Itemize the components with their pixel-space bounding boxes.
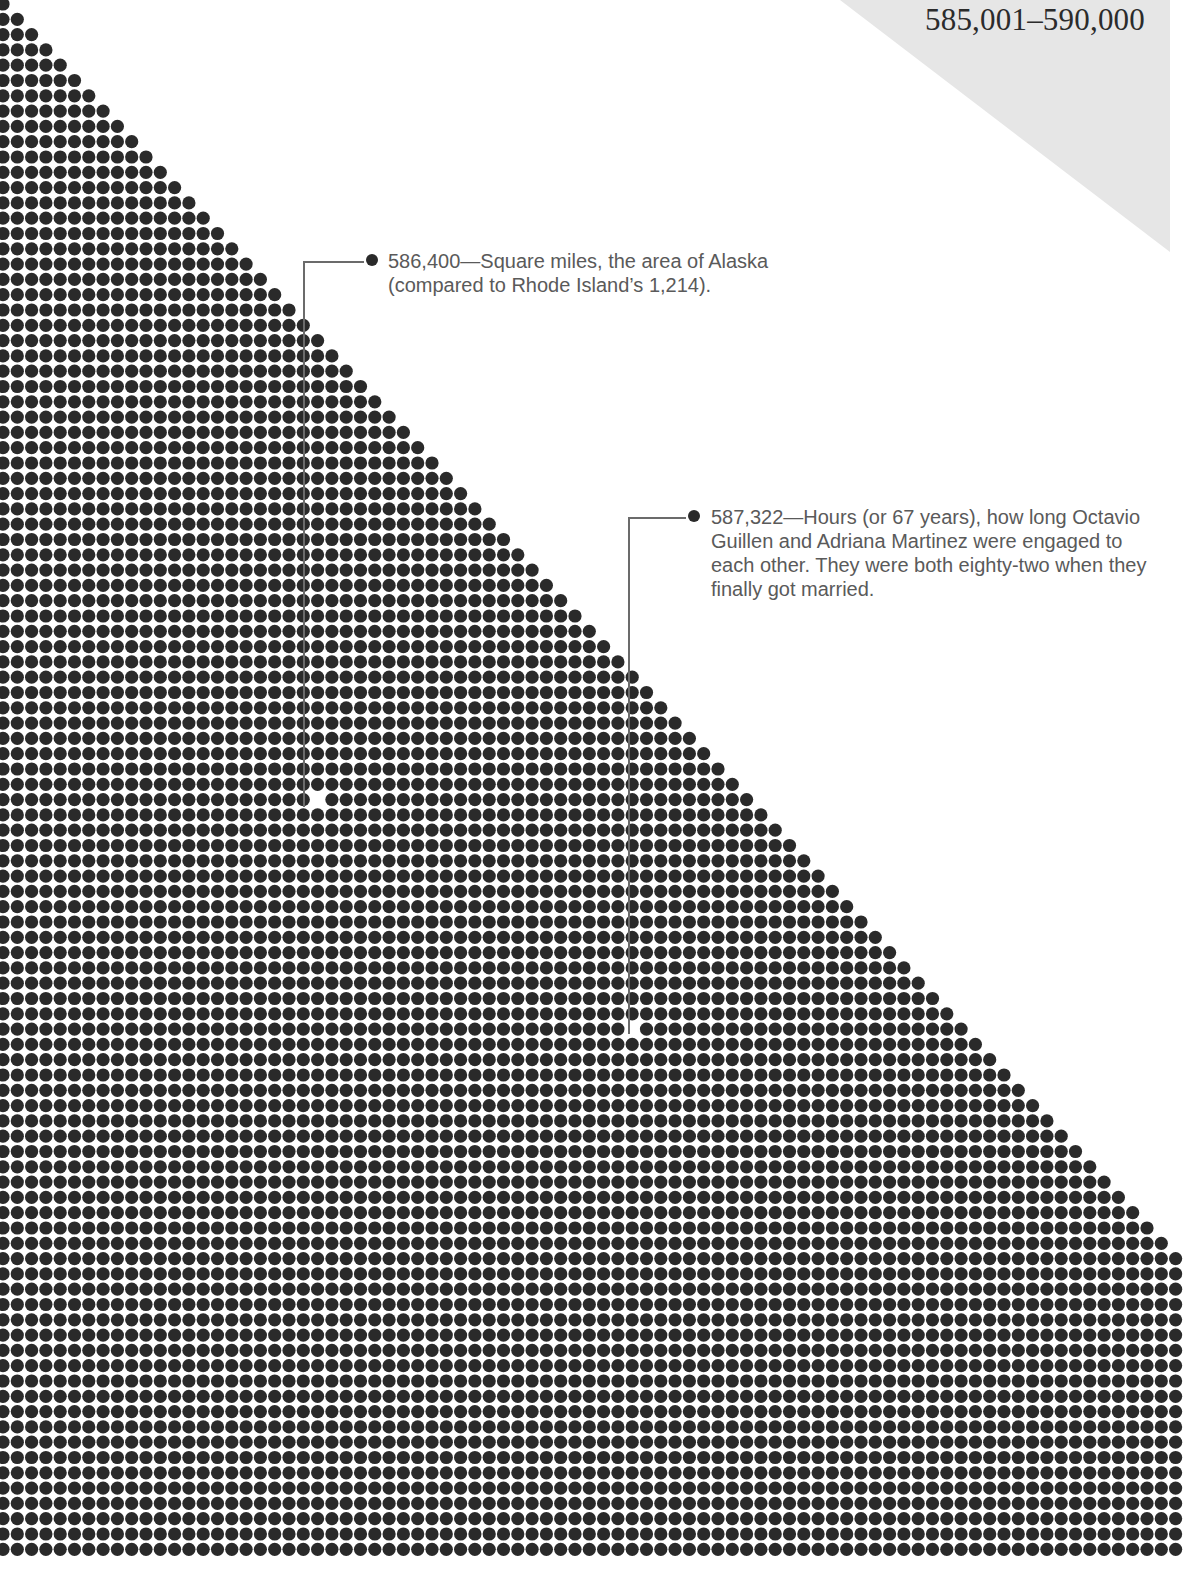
dot-matrix-graphic: [0, 0, 1185, 1573]
callout-alaska: 586,400—Square miles, the area of Alaska…: [388, 249, 858, 297]
callout-engagement: 587,322—Hours (or 67 years), how long Oc…: [711, 505, 1171, 601]
dot-field: [0, 0, 1182, 1556]
range-title: 585,001–590,000: [925, 2, 1145, 38]
